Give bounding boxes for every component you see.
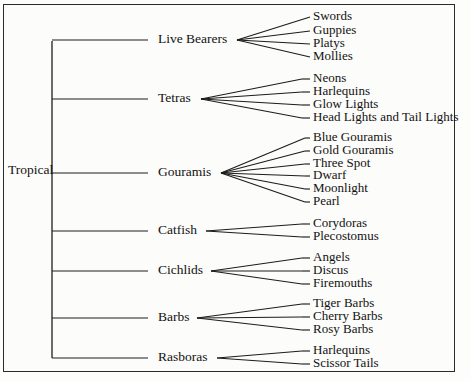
group-node-tetras: Tetras: [158, 90, 191, 105]
leaf-line-guppies: [237, 31, 310, 40]
leaf-line-angels: [211, 258, 302, 271]
group-node-catfish: Catfish: [158, 222, 197, 237]
leaf-node-pearl: Pearl: [313, 193, 340, 208]
leaf-line-harlequins: [217, 351, 302, 358]
leaf-line-rosy-barbs: [197, 318, 302, 330]
leaf-node-mollies: Mollies: [313, 48, 353, 63]
leaf-line-cherry-barbs: [197, 317, 302, 318]
leaf-node-swords: Swords: [313, 8, 352, 23]
leaf-node-plecostomus: Plecostomus: [313, 228, 379, 243]
leaf-line-tiger-barbs: [197, 304, 302, 318]
tree-diagram: TropicalLive BearersSwordsGuppiesPlatysM…: [0, 0, 471, 381]
root-node-tropical: Tropical: [8, 162, 54, 177]
leaf-line-swords: [237, 17, 310, 40]
leaf-node-rosy-barbs: Rosy Barbs: [313, 321, 373, 336]
diagram-page: TropicalLive BearersSwordsGuppiesPlatysM…: [0, 0, 471, 381]
group-node-barbs: Barbs: [158, 309, 190, 324]
leaf-line-pearl: [221, 173, 305, 202]
leaf-line-firemouths: [211, 271, 302, 284]
group-node-rasboras: Rasboras: [158, 349, 208, 364]
group-node-live-bearers: Live Bearers: [158, 31, 227, 46]
group-node-cichlids: Cichlids: [158, 262, 203, 277]
leaf-line-three-spot: [221, 164, 305, 173]
leaf-line-corydoras: [206, 224, 302, 231]
leaf-line-scissor-tails: [217, 358, 302, 364]
group-node-gouramis: Gouramis: [158, 164, 211, 179]
leaf-node-head-lights-and-tail-lights: Head Lights and Tail Lights: [313, 109, 458, 124]
leaf-node-firemouths: Firemouths: [313, 275, 372, 290]
leaf-line-gold-gouramis: [221, 151, 305, 173]
leaf-node-scissor-tails: Scissor Tails: [313, 355, 379, 370]
leaf-line-plecostomus: [206, 231, 302, 237]
leaf-line-blue-gouramis: [221, 138, 305, 173]
tree-labels: TropicalLive BearersSwordsGuppiesPlatysM…: [8, 8, 458, 370]
